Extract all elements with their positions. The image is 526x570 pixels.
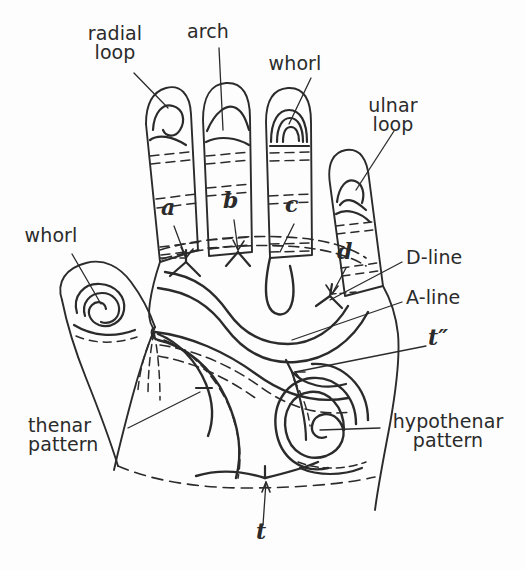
- label-radial-loop: radial loop: [72, 24, 158, 63]
- label-a-line: A-line: [406, 288, 460, 307]
- label-arch: arch: [178, 22, 238, 41]
- label-thenar-pattern: thenar pattern: [28, 416, 99, 455]
- label-triradius-b: b: [223, 189, 238, 211]
- label-triradius-d: d: [337, 240, 352, 262]
- hand-drawing: [0, 0, 526, 570]
- radial-loop-pattern: [153, 105, 183, 135]
- leader-radial-loop: [134, 73, 168, 108]
- leader-hypothenar: [320, 428, 380, 430]
- arch-pattern: [207, 107, 249, 131]
- index-finger: [146, 87, 201, 262]
- label-whorl-thumb: whorl: [18, 226, 84, 245]
- label-hypothenar-pattern: hypothenar pattern: [376, 412, 520, 451]
- label-d-line: D-line: [406, 248, 462, 267]
- label-triradius-a: a: [161, 196, 175, 218]
- little-finger: [329, 150, 383, 296]
- label-triradius-c: c: [285, 193, 299, 215]
- ring-finger: [266, 88, 312, 258]
- label-triradius-t: t: [256, 520, 266, 542]
- leader-arch: [219, 48, 223, 130]
- palm-creases: [138, 237, 368, 479]
- whorl-pattern-thumb: [76, 284, 124, 326]
- middle-finger: [203, 83, 252, 256]
- leader-thenar: [128, 392, 200, 428]
- hand-diagram-figure: radial loop arch whorl ulnar loop whorl …: [0, 0, 526, 570]
- leader-ulnar-loop: [356, 131, 394, 190]
- label-t-double-prime: t″: [428, 326, 448, 348]
- label-ulnar-loop: ulnar loop: [358, 96, 428, 135]
- label-whorl-ring: whorl: [262, 54, 328, 73]
